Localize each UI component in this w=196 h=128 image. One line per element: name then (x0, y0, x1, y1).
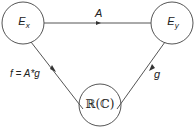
node-rc-label: ℝ(ℂ) (82, 97, 118, 111)
arrow-top-icon (96, 21, 101, 25)
node-ex-label: Ex (12, 15, 36, 30)
edge-top-label: A (95, 7, 102, 19)
edge-right-label: g (154, 68, 160, 80)
edge-left-label: f = A*g (10, 68, 40, 79)
node-ey-label: Ey (161, 15, 185, 30)
